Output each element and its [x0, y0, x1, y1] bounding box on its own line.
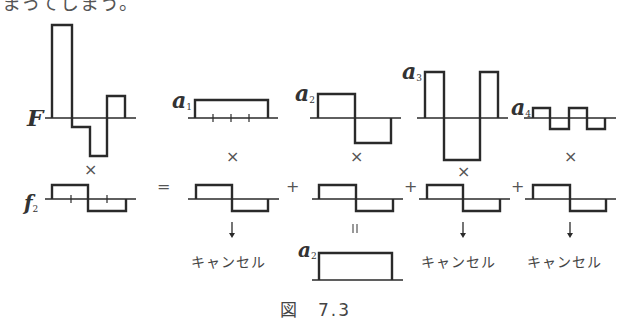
equals-sign: =: [157, 177, 170, 196]
label-a3: a3: [402, 58, 422, 84]
plus-sign: +: [511, 177, 524, 196]
a2-result-waveform: [319, 253, 392, 280]
label-a4: a4: [511, 94, 531, 120]
plus-sign: +: [404, 177, 417, 196]
F-waveform: [52, 25, 125, 156]
arrow-down-icon: [229, 233, 235, 238]
a3-waveform: [425, 72, 498, 160]
plus-sign: +: [286, 177, 299, 196]
times-sign: ×: [84, 160, 97, 179]
label-a1: a1: [172, 87, 192, 113]
figure-caption: 図 7.3: [280, 296, 351, 321]
times-sign: ×: [457, 162, 470, 181]
product-1: [196, 185, 268, 211]
label-f2: f2: [24, 191, 38, 215]
arrow-down-icon: [567, 233, 573, 238]
product-3: [427, 185, 500, 211]
times-sign: ×: [564, 147, 577, 166]
label-a2: a2: [295, 80, 315, 106]
label-a2-result: a2: [298, 238, 317, 262]
times-sign: ×: [226, 147, 239, 166]
label-F: F: [27, 104, 43, 131]
times-sign: ×: [350, 147, 363, 166]
cancel-label: キャンセル: [421, 251, 496, 271]
cancel-label: キャンセル: [527, 251, 602, 271]
cancel-label: キャンセル: [191, 251, 266, 271]
f2-waveform: [52, 185, 126, 211]
product-4: [533, 185, 606, 211]
product-2: [319, 185, 393, 211]
arrow-down-icon: [460, 233, 466, 238]
